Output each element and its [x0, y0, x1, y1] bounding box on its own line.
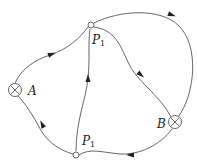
- arrowhead-icon: [86, 74, 91, 82]
- node-label-p1-top: P1: [91, 33, 105, 48]
- node-label-p1-bottom: P1: [81, 134, 95, 149]
- node-p1-top-open-circle-icon: [88, 22, 94, 28]
- node-b-crossed-circle-icon: [169, 116, 182, 129]
- arrowhead-icon: [136, 71, 145, 80]
- flow-diagram: A B P1 P1: [0, 0, 197, 165]
- arrowhead-icon: [47, 50, 56, 57]
- edge-p1-top-to-b: [94, 13, 193, 117]
- edge-p1-bottom-to-a: [18, 96, 73, 154]
- node-label-a: A: [27, 84, 37, 98]
- edge-p1-bottom-to-p1-top: [76, 29, 90, 151]
- node-a-crossed-circle-icon: [9, 84, 22, 97]
- node-label-b: B: [156, 117, 166, 131]
- edge-p1-top-to-b: [94, 27, 171, 117]
- node-p1-bottom-open-circle-icon: [73, 152, 79, 158]
- arrowhead-icon: [167, 11, 176, 18]
